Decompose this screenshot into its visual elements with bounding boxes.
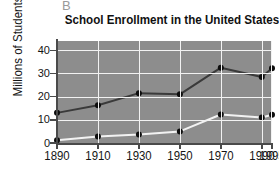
y-tick-mark (50, 119, 56, 121)
y-tick-label: 10 (20, 114, 50, 125)
y-tick-mark (50, 96, 56, 98)
gridline-horizontal (57, 120, 272, 121)
gridline-vertical (221, 41, 222, 143)
x-tick-label: 1930 (124, 150, 154, 163)
y-tick-label-wrap: 0 (0, 138, 50, 149)
gridline-vertical (98, 41, 99, 143)
x-tick-label: 1970 (206, 150, 236, 163)
gridline-horizontal (57, 97, 272, 98)
gridline-vertical (180, 41, 181, 143)
y-tick-mark (50, 142, 56, 144)
y-tick-label: 0 (20, 138, 50, 149)
y-tick-label-wrap: 30 (0, 68, 50, 79)
series-line (57, 114, 272, 140)
gridline-horizontal (57, 50, 272, 51)
x-tick-label: 1910 (83, 150, 113, 163)
y-tick-label-wrap: 20 (0, 91, 50, 102)
x-axis-line (56, 143, 273, 145)
gridline-horizontal (57, 73, 272, 74)
x-tick-label: 1995 (257, 150, 279, 163)
y-axis-line (56, 39, 58, 144)
y-tick-label: 20 (20, 91, 50, 102)
y-tick-label-wrap: 10 (0, 114, 50, 125)
data-point-marker (269, 65, 275, 71)
x-tick-label: 1890 (42, 150, 72, 163)
chart-title: School Enrollment in the United States (65, 13, 271, 27)
chart-figure: B School Enrollment in the United States… (0, 0, 279, 178)
x-tick-label: 1950 (165, 150, 195, 163)
y-tick-label: 30 (20, 68, 50, 79)
y-tick-label: 40 (20, 45, 50, 56)
y-tick-mark (50, 73, 56, 75)
gridline-vertical (262, 41, 263, 143)
series-layer (57, 41, 272, 143)
gridline-vertical (271, 41, 272, 143)
y-tick-mark (50, 50, 56, 52)
gridline-vertical (139, 41, 140, 143)
panel-letter: B (62, 0, 71, 13)
data-point-marker (269, 112, 275, 118)
plot-area (57, 41, 272, 143)
y-tick-label-wrap: 40 (0, 45, 50, 56)
